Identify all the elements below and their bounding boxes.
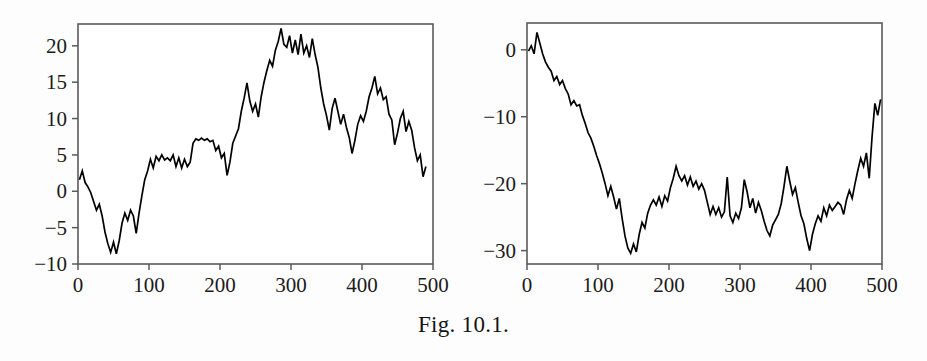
figure-container: 0100200300400500−10−505101520 0100200300… bbox=[0, 0, 927, 361]
x-tick-label: 400 bbox=[795, 273, 827, 297]
y-tick-label: 0 bbox=[506, 38, 517, 62]
y-tick-label: 10 bbox=[46, 107, 67, 131]
y-tick-label: 15 bbox=[46, 70, 67, 94]
x-tick-label: 100 bbox=[582, 273, 614, 297]
x-tick-label: 200 bbox=[653, 273, 685, 297]
figure-caption: Fig. 10.1. bbox=[0, 312, 927, 338]
x-tick-label: 0 bbox=[522, 273, 533, 297]
x-tick-label: 200 bbox=[204, 273, 236, 297]
line-chart-left: 0100200300400500−10−505101520 bbox=[0, 0, 463, 310]
x-tick-label: 400 bbox=[346, 273, 378, 297]
chart-panel-left: 0100200300400500−10−505101520 bbox=[0, 0, 463, 310]
y-tick-label: −5 bbox=[45, 216, 67, 240]
y-tick-label: −30 bbox=[483, 239, 516, 263]
plot-frame bbox=[527, 23, 882, 264]
y-tick-label: −10 bbox=[483, 105, 516, 129]
x-tick-label: 500 bbox=[866, 273, 898, 297]
y-tick-label: 20 bbox=[46, 34, 67, 58]
x-tick-label: 100 bbox=[133, 273, 165, 297]
y-tick-label: 0 bbox=[57, 179, 68, 203]
plot-frame bbox=[78, 24, 433, 264]
chart-panel-right: 0100200300400500−30−20−100 bbox=[463, 0, 927, 310]
x-tick-label: 0 bbox=[73, 273, 84, 297]
x-tick-label: 300 bbox=[724, 273, 756, 297]
y-tick-label: −10 bbox=[34, 252, 67, 276]
x-tick-label: 300 bbox=[275, 273, 307, 297]
y-tick-label: −20 bbox=[483, 172, 516, 196]
y-tick-label: 5 bbox=[57, 143, 68, 167]
x-tick-label: 500 bbox=[417, 273, 449, 297]
line-chart-right: 0100200300400500−30−20−100 bbox=[463, 0, 927, 310]
